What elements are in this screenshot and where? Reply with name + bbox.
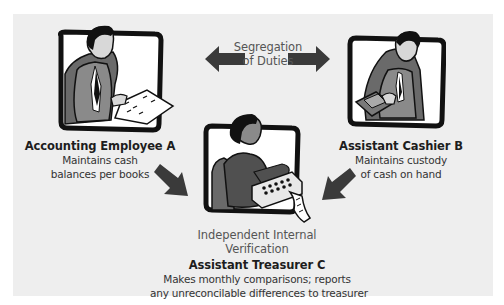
verification-line2: Verification xyxy=(182,242,332,256)
illustration-assistant-cashier xyxy=(346,30,446,130)
role-a-desc-line2: balances per books xyxy=(20,168,180,182)
role-b-text: Assistant Cashier B Maintains custody of… xyxy=(336,139,466,181)
man-reading-ledger-icon xyxy=(55,24,175,136)
role-b-title: Assistant Cashier B xyxy=(336,139,466,153)
illustration-accounting-employee xyxy=(55,24,175,136)
woman-adding-machine-icon xyxy=(200,114,312,224)
role-c-text: Assistant Treasurer C Makes monthly comp… xyxy=(150,258,364,300)
segregation-line1: Segregation xyxy=(218,40,318,54)
role-b-desc-line2: of cash on hand xyxy=(336,168,466,182)
segregation-of-duties-label: Segregation of Duties xyxy=(218,40,318,68)
segregation-line2: of Duties xyxy=(218,54,318,68)
role-c-title: Assistant Treasurer C xyxy=(150,258,364,272)
role-b-desc-line1: Maintains custody xyxy=(336,154,466,168)
verification-line1: Independent Internal xyxy=(182,228,332,242)
role-a-title: Accounting Employee A xyxy=(20,139,180,153)
role-a-text: Accounting Employee A Maintains cash bal… xyxy=(20,139,180,181)
man-counting-cash-icon xyxy=(346,30,446,130)
independent-verification-label: Independent Internal Verification xyxy=(182,228,332,256)
role-c-desc-line1: Makes monthly comparisons; reports xyxy=(150,273,364,287)
role-c-desc-line2: any unreconcilable differences to treasu… xyxy=(150,287,364,301)
role-a-desc-line1: Maintains cash xyxy=(20,154,180,168)
illustration-assistant-treasurer xyxy=(200,114,312,224)
